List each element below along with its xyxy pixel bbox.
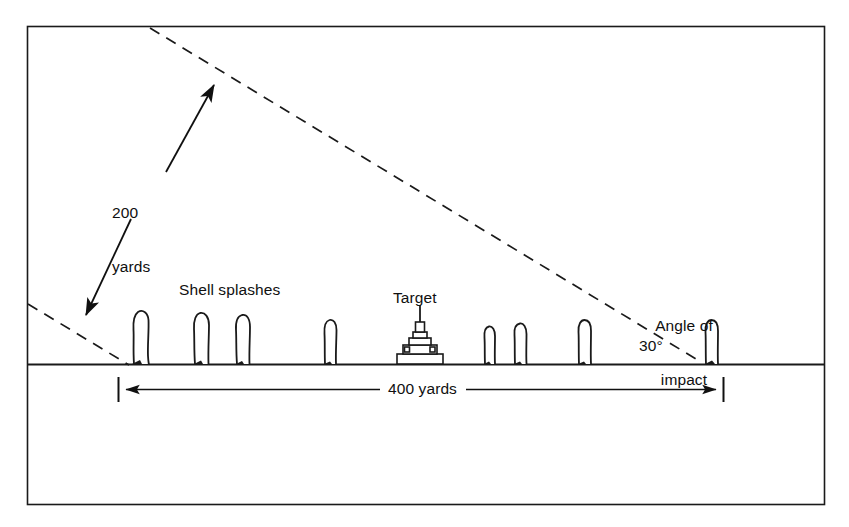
angle-of-impact-label-line1: Angle of [636,317,732,335]
ship-deck-step-3 [413,332,427,338]
shell-splash-1 [133,311,148,364]
ship-bridge [416,322,425,332]
angle-of-impact-label-line2: impact [636,371,732,389]
shell-splash-6 [514,323,526,364]
shell-splash-7 [578,320,591,364]
range-error-label: 200 yards [112,168,150,312]
angle-value-label: 30° [639,337,663,355]
ship-sponson-right [430,347,435,352]
shell-splash-2 [194,313,209,364]
figure-root: 200 yards Shell splashes Target Angle of… [0,0,849,527]
target-label: Target [393,289,437,307]
shell-splash-3 [236,315,250,364]
ship-hull [397,354,443,364]
shell-splash-5 [484,326,495,364]
range-error-label-line2: yards [112,258,150,276]
range-error-label-line1: 200 [112,204,150,222]
shell-splashes-label: Shell splashes [179,281,280,299]
ship-deck-step-2 [409,338,431,345]
ship-sponson-left [405,347,410,352]
pattern-length-label: 400 yards [388,380,457,398]
shell-splash-4 [324,320,336,364]
